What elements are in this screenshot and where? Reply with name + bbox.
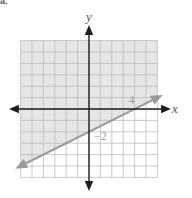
y-intercept-label: −2 <box>94 130 107 142</box>
y-axis-label: y <box>86 10 92 23</box>
x-axis-label: x <box>172 102 178 115</box>
x-intercept-label: 4 <box>129 94 135 106</box>
coordinate-plane <box>0 0 192 198</box>
